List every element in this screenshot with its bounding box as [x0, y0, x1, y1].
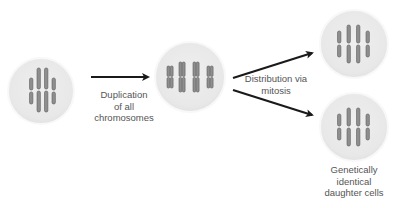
daughters-label-line-3: daughter cells — [312, 187, 396, 199]
distribution-label: Distribution via mitosis — [228, 73, 324, 96]
parent-cell — [8, 58, 74, 124]
duplicated-cell — [155, 42, 225, 112]
duplication-label: Duplication of all chromosomes — [84, 89, 164, 124]
distribution-label-line-1: Distribution via — [228, 73, 324, 85]
distribution-label-line-2: mitosis — [228, 85, 324, 97]
duplication-label-line-3: chromosomes — [84, 112, 164, 124]
daughters-label-line-2: identical — [312, 176, 396, 188]
daughter-cell-2 — [320, 93, 388, 161]
duplication-label-line-2: of all — [84, 101, 164, 113]
duplication-label-line-1: Duplication — [84, 89, 164, 101]
daughters-label-line-1: Genetically — [312, 164, 396, 176]
daughter-cell-1 — [320, 10, 388, 78]
daughters-label: Genetically identical daughter cells — [312, 164, 396, 199]
